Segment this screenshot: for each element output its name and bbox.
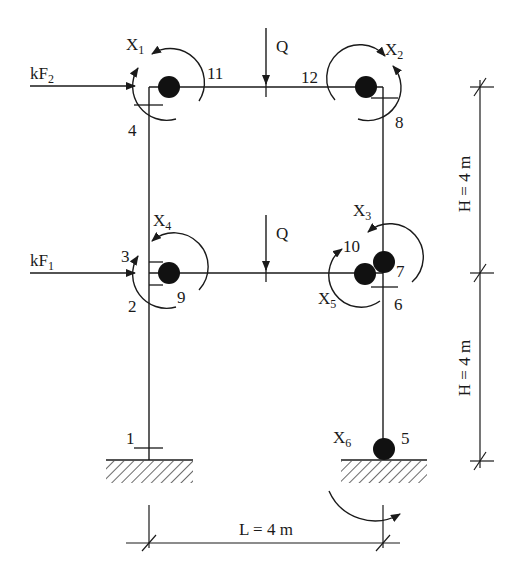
label-Q-mid: Q — [276, 224, 288, 243]
section-8: 8 — [395, 113, 404, 132]
section-10: 10 — [343, 237, 360, 256]
section-3: 3 — [121, 247, 130, 266]
label-X1: X1 — [126, 35, 144, 57]
label-X4: X4 — [153, 211, 171, 233]
section-4: 4 — [128, 121, 137, 140]
hinge-12 — [355, 76, 377, 98]
label-X6: X6 — [333, 428, 351, 450]
label-Q-top: Q — [276, 37, 288, 56]
section-12: 12 — [301, 68, 318, 87]
hinge-5 — [373, 438, 395, 460]
frame-diagram: kF2 kF1 Q Q X1 X2 X3 X4 X5 X6 1 2 3 4 5 … — [0, 0, 520, 577]
section-7: 7 — [396, 262, 405, 281]
label-kF1: kF1 — [30, 251, 54, 273]
moment-X1-arc — [152, 49, 204, 101]
dim-span: L = 4 m — [239, 520, 293, 539]
right-support — [341, 460, 427, 483]
label-kF2: kF2 — [30, 64, 54, 86]
section-6: 6 — [394, 295, 403, 314]
left-support — [106, 460, 193, 483]
label-X2: X2 — [385, 40, 403, 62]
section-11: 11 — [207, 64, 223, 83]
hinge-9 — [158, 262, 180, 284]
horizontal-loads — [30, 86, 135, 273]
hinge-10 — [354, 263, 376, 285]
plastic-hinges — [158, 76, 395, 460]
label-X3: X3 — [353, 201, 371, 223]
dim-height-lower: H = 4 m — [455, 340, 474, 396]
section-5: 5 — [401, 429, 410, 448]
hinge-11 — [158, 76, 180, 98]
hinge-7 — [373, 251, 395, 273]
section-9: 9 — [177, 288, 186, 307]
section-2: 2 — [128, 297, 137, 316]
dim-height-upper: H = 4 m — [455, 156, 474, 212]
section-1: 1 — [126, 429, 135, 448]
moment-X6-arc — [329, 491, 400, 521]
moment-X2-arc — [327, 45, 385, 100]
